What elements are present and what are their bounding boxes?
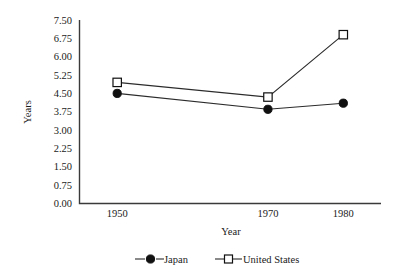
data-point-marker xyxy=(264,105,272,113)
y-tick-label: 2.25 xyxy=(54,143,72,154)
open-square-marker xyxy=(225,255,233,263)
x-tick-label: 1980 xyxy=(333,208,354,219)
legend-item-united-states[interactable]: United States xyxy=(215,254,299,265)
series-line xyxy=(117,93,343,109)
legend-item-japan[interactable]: Japan xyxy=(135,254,189,265)
data-point-marker xyxy=(264,93,272,101)
y-tick-label: 4.50 xyxy=(54,88,72,99)
data-point-marker xyxy=(113,89,121,97)
data-point-marker xyxy=(339,30,347,38)
y-axis-tick-labels: 0.000.751.502.253.003.754.505.256.006.75… xyxy=(54,15,72,210)
chart-series-united-states xyxy=(113,30,348,101)
chart-axes xyxy=(80,20,382,204)
y-tick-label: 7.50 xyxy=(54,15,72,26)
chart-series-group xyxy=(113,30,348,113)
data-point-marker xyxy=(113,78,121,86)
series-line xyxy=(117,35,343,97)
x-axis-tick-labels: 195019701980 xyxy=(107,208,354,219)
data-point-marker xyxy=(339,99,347,107)
y-tick-label: 0.00 xyxy=(54,198,72,209)
y-tick-label: 6.75 xyxy=(54,33,72,44)
y-tick-label: 3.00 xyxy=(54,125,72,136)
filled-circle-marker xyxy=(146,255,154,263)
legend-label-japan: Japan xyxy=(164,254,189,265)
y-tick-label: 3.75 xyxy=(54,106,72,117)
y-axis-title: Years xyxy=(22,100,33,123)
x-tick-label: 1950 xyxy=(107,208,128,219)
x-tick-label: 1970 xyxy=(257,208,278,219)
y-tick-label: 5.25 xyxy=(54,70,72,81)
line-chart: 0.000.751.502.253.003.754.505.256.006.75… xyxy=(0,0,393,274)
x-axis-title: Year xyxy=(221,226,241,237)
y-tick-label: 0.75 xyxy=(54,180,72,191)
chart-legend: Japan United States xyxy=(135,254,299,265)
y-tick-label: 1.50 xyxy=(54,161,72,172)
y-tick-label: 6.00 xyxy=(54,51,72,62)
chart-canvas: 0.000.751.502.253.003.754.505.256.006.75… xyxy=(0,0,393,274)
legend-label-united-states: United States xyxy=(243,254,299,265)
